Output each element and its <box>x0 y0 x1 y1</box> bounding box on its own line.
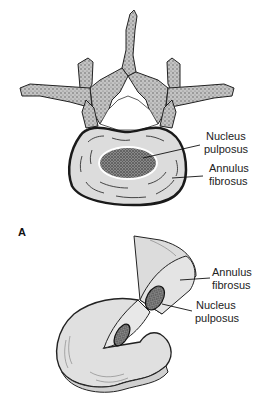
vertebra-top-view: Nucleus pulposus Annulus fibrosus <box>20 10 252 205</box>
panel-label-a: A <box>18 226 26 238</box>
disc-cutaway-view: Annulus fibrosus Nucleus pulposus <box>57 236 255 392</box>
label-nucleus-pulposus-bottom: Nucleus pulposus <box>195 299 240 324</box>
nucleus-pulposus <box>99 147 157 179</box>
spinous-process <box>122 10 137 76</box>
label-nucleus-pulposus-top: Nucleus pulposus <box>204 130 249 155</box>
transverse-process-right <box>166 84 234 108</box>
figure-canvas: Nucleus pulposus Annulus fibrosus A <box>0 0 259 411</box>
label-annulus-fibrosus-bottom: Annulus fibrosus <box>212 266 255 291</box>
transverse-process-left <box>20 84 92 108</box>
label-annulus-fibrosus-top: Annulus fibrosus <box>209 162 252 187</box>
